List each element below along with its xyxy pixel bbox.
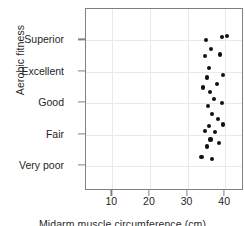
data-point	[203, 54, 207, 58]
plot-area	[85, 8, 243, 190]
gridline-horizontal	[86, 40, 242, 41]
gridline-horizontal	[86, 135, 242, 136]
y-tick-label: Superior	[24, 33, 64, 45]
data-point	[207, 66, 211, 70]
x-tick-label: 40	[218, 195, 230, 207]
y-tick-label: Good	[38, 96, 64, 108]
gridline-horizontal	[86, 103, 242, 104]
data-point	[213, 130, 217, 134]
data-point	[207, 124, 211, 128]
y-tick-mark	[78, 133, 85, 134]
data-point	[208, 90, 212, 94]
gridline-vertical	[150, 9, 151, 189]
data-point	[216, 117, 220, 121]
data-point	[205, 75, 209, 79]
data-point	[208, 137, 212, 141]
data-point	[220, 35, 224, 39]
x-tick-label: 30	[181, 195, 193, 207]
data-point	[209, 47, 213, 51]
x-tick-mark	[224, 190, 225, 196]
data-point	[215, 82, 219, 86]
data-point	[225, 34, 229, 38]
gridline-horizontal	[86, 72, 242, 73]
data-point	[205, 144, 209, 148]
y-tick-mark	[78, 39, 85, 40]
data-point	[220, 101, 224, 105]
data-point	[201, 85, 205, 89]
gridline-horizontal	[86, 166, 242, 167]
data-point	[218, 52, 222, 56]
y-tick-mark	[78, 70, 85, 71]
data-point	[203, 129, 207, 133]
data-point	[221, 73, 225, 77]
x-tick-mark	[148, 190, 149, 196]
y-tick-mark	[78, 164, 85, 165]
x-axis-title-text: Midarm muscle circumference (cm)	[39, 218, 206, 226]
x-axis-title: Midarm muscle circumference (cm)	[0, 214, 245, 226]
data-point	[206, 104, 210, 108]
data-point	[212, 97, 216, 101]
y-tick-mark	[78, 102, 85, 103]
y-tick-label: Fair	[46, 128, 64, 140]
x-tick-mark	[111, 190, 112, 196]
data-point	[217, 141, 221, 145]
data-point	[221, 122, 225, 126]
data-point	[210, 112, 214, 116]
scatter-chart: Aerobic fitness Very poorFairGoodExcelle…	[0, 0, 245, 226]
gridline-vertical	[188, 9, 189, 189]
gridline-vertical	[112, 9, 113, 189]
x-tick-mark	[186, 190, 187, 196]
x-tick-label: 20	[143, 195, 155, 207]
y-tick-label: Very poor	[19, 159, 64, 171]
x-tick-label: 10	[105, 195, 117, 207]
y-tick-label: Excellent	[21, 65, 64, 77]
data-point	[204, 38, 208, 42]
data-point	[210, 157, 214, 161]
data-point	[199, 155, 203, 159]
